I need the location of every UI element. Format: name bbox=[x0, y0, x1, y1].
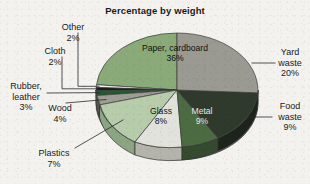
label-yard-waste-line2: waste bbox=[270, 58, 310, 69]
label-yard-waste-value: 20% bbox=[270, 68, 310, 79]
label-other-value: 2% bbox=[44, 33, 102, 44]
label-wood-name: Wood bbox=[38, 103, 82, 114]
label-plastics-value: 7% bbox=[26, 159, 82, 170]
label-yard-waste-line1: Yard bbox=[270, 47, 310, 58]
label-food-waste-value: 9% bbox=[270, 122, 310, 133]
label-paper-cardboard-value: 36% bbox=[120, 53, 230, 63]
label-metal-value: 9% bbox=[182, 116, 222, 126]
label-food-waste-line1: Food bbox=[270, 101, 310, 112]
label-wood-value: 4% bbox=[38, 114, 82, 125]
label-glass-value: 8% bbox=[140, 116, 182, 126]
label-glass-name: Glass bbox=[140, 106, 182, 116]
label-metal-name: Metal bbox=[182, 106, 222, 116]
label-other: Other 2% bbox=[44, 22, 102, 43]
label-cloth: Cloth 2% bbox=[26, 46, 84, 67]
label-cloth-name: Cloth bbox=[26, 46, 84, 57]
label-cloth-value: 2% bbox=[26, 57, 84, 68]
label-metal: Metal 9% bbox=[182, 106, 222, 126]
label-plastics-name: Plastics bbox=[26, 148, 82, 159]
label-rubber-leather-line1: Rubber, bbox=[1, 81, 51, 92]
label-food-waste: Food waste 9% bbox=[270, 101, 310, 133]
label-other-name: Other bbox=[44, 22, 102, 33]
chart-canvas: Percentage by weight bbox=[0, 0, 310, 184]
label-wood: Wood 4% bbox=[38, 103, 82, 124]
label-paper-cardboard: Paper, cardboard 36% bbox=[120, 43, 230, 63]
label-paper-cardboard-name: Paper, cardboard bbox=[120, 43, 230, 53]
label-glass: Glass 8% bbox=[140, 106, 182, 126]
label-rubber-leather-line2: leather bbox=[1, 92, 51, 103]
label-food-waste-line2: waste bbox=[270, 112, 310, 123]
label-plastics: Plastics 7% bbox=[26, 148, 82, 169]
label-yard-waste: Yard waste 20% bbox=[270, 47, 310, 79]
